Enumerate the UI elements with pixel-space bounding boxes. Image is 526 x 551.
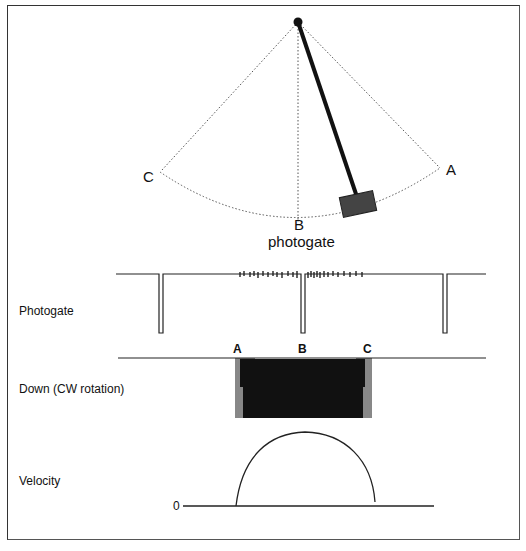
point-label-a: A	[446, 161, 456, 178]
velocity-trace-label: Velocity	[19, 474, 60, 488]
guide-line-c	[162, 22, 298, 170]
down-trace	[118, 358, 486, 418]
down-marker-b: B	[298, 342, 307, 356]
photogate-trace-label: Photogate	[19, 304, 74, 318]
velocity-trace	[183, 432, 434, 506]
point-label-c: C	[143, 168, 154, 185]
swing-arc	[160, 168, 440, 218]
pendulum-bob	[339, 191, 376, 218]
guide-line-a	[298, 22, 440, 168]
velocity-zero-label: 0	[173, 499, 180, 513]
photogate-trace	[116, 271, 486, 333]
down-trace-label: Down (CW rotation)	[19, 382, 124, 396]
photogate-caption: photogate	[268, 233, 335, 250]
pendulum-diagram	[0, 0, 526, 551]
point-label-b: B	[294, 216, 304, 233]
down-marker-c: C	[363, 342, 372, 356]
pendulum-rod	[298, 22, 357, 197]
swing-guides	[160, 22, 440, 222]
pivot-icon	[294, 18, 303, 27]
down-marker-a: A	[233, 342, 242, 356]
